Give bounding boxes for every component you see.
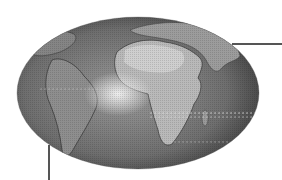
leader-line-bottom — [48, 145, 50, 180]
landmasses — [0, 0, 282, 180]
globe-svg — [0, 0, 282, 180]
leader-line-right — [232, 43, 282, 45]
globe-diagram — [0, 0, 282, 180]
halftone-texture — [0, 0, 282, 180]
